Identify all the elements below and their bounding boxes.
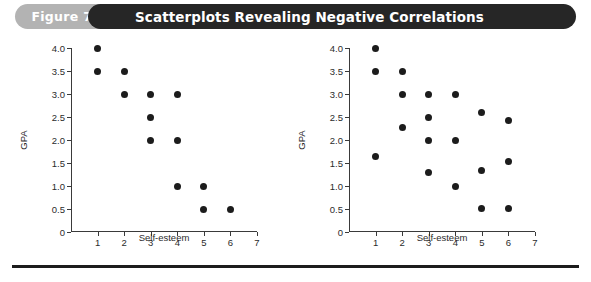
data-point — [174, 137, 181, 144]
y-axis-tick — [345, 209, 349, 210]
data-point — [94, 68, 101, 75]
scatterplot-right: 00.51.01.52.02.53.03.54.01234567 GPA Sel… — [278, 34, 573, 262]
y-axis-tick-label: 1.5 — [52, 158, 65, 169]
y-axis-title: GPA — [296, 48, 307, 232]
y-axis-tick-label: 2.0 — [52, 135, 65, 146]
data-point — [452, 91, 459, 98]
data-point — [200, 206, 207, 213]
bottom-rule — [12, 265, 579, 268]
y-axis-tick-label: 4.0 — [52, 43, 65, 54]
data-point — [505, 205, 512, 212]
y-axis-tick-label: 0.5 — [52, 204, 65, 215]
y-axis-tick-label: 4.0 — [330, 43, 343, 54]
data-point — [372, 45, 379, 52]
data-point — [452, 137, 459, 144]
y-axis-line — [71, 48, 72, 232]
y-axis-tick-label: 1.5 — [330, 158, 343, 169]
y-axis-tick — [67, 71, 71, 72]
y-axis-tick-label: 2.5 — [52, 112, 65, 123]
x-axis-title: Self-esteem — [71, 232, 257, 243]
data-point — [452, 183, 459, 190]
y-axis-tick — [345, 186, 349, 187]
data-point — [425, 137, 432, 144]
data-point — [399, 68, 406, 75]
y-axis-tick-label: 0 — [60, 227, 65, 238]
y-axis-title-wrap: GPA — [18, 48, 30, 232]
figure-header: Figure 7-6 Scatterplots Revealing Negati… — [0, 0, 591, 34]
data-point — [174, 91, 181, 98]
data-point — [200, 183, 207, 190]
data-point — [505, 158, 512, 165]
data-point — [478, 167, 485, 174]
y-axis-tick — [67, 140, 71, 141]
y-axis-tick-label: 1.0 — [330, 181, 343, 192]
plot-area-left: 00.51.01.52.02.53.03.54.01234567 — [71, 48, 257, 232]
data-point — [147, 91, 154, 98]
data-point — [174, 183, 181, 190]
y-axis-tick-label: 3.5 — [52, 66, 65, 77]
data-point — [478, 109, 485, 116]
data-point — [372, 153, 379, 160]
charts-row: 00.51.01.52.02.53.03.54.01234567 GPA Sel… — [0, 34, 591, 262]
y-axis-title-wrap: GPA — [296, 48, 308, 232]
y-axis-tick-label: 3.0 — [330, 89, 343, 100]
y-axis-tick-label: 2.0 — [330, 135, 343, 146]
data-point — [372, 68, 379, 75]
data-point — [478, 205, 485, 212]
y-axis-tick — [345, 94, 349, 95]
y-axis-tick-label: 1.0 — [52, 181, 65, 192]
y-axis-tick-label: 3.5 — [330, 66, 343, 77]
x-axis-tick — [535, 232, 536, 236]
data-point — [425, 114, 432, 121]
y-axis-tick — [345, 48, 349, 49]
y-axis-tick — [67, 117, 71, 118]
figure-title-bar: Scatterplots Revealing Negative Correlat… — [88, 4, 576, 29]
y-axis-tick-label: 2.5 — [330, 112, 343, 123]
y-axis-tick — [67, 186, 71, 187]
y-axis-tick — [67, 94, 71, 95]
data-point — [399, 91, 406, 98]
data-point — [121, 68, 128, 75]
data-point — [94, 45, 101, 52]
y-axis-tick — [345, 117, 349, 118]
x-axis-title: Self-esteem — [349, 232, 535, 243]
y-axis-tick — [67, 48, 71, 49]
y-axis-tick — [67, 163, 71, 164]
data-point — [505, 117, 512, 124]
y-axis-line — [349, 48, 350, 232]
data-point — [121, 91, 128, 98]
figure-title: Scatterplots Revealing Negative Correlat… — [135, 9, 484, 25]
data-point — [425, 91, 432, 98]
y-axis-tick — [345, 71, 349, 72]
y-axis-title: GPA — [18, 48, 29, 232]
y-axis-tick — [67, 209, 71, 210]
data-point — [147, 137, 154, 144]
x-axis-tick — [257, 232, 258, 236]
y-axis-tick — [345, 163, 349, 164]
data-point — [399, 124, 406, 131]
y-axis-tick-label: 3.0 — [52, 89, 65, 100]
y-axis-tick-label: 0.5 — [330, 204, 343, 215]
scatterplot-left: 00.51.01.52.02.53.03.54.01234567 GPA Sel… — [0, 34, 295, 262]
plot-area-right: 00.51.01.52.02.53.03.54.01234567 — [349, 48, 535, 232]
y-axis-tick — [345, 140, 349, 141]
y-axis-tick-label: 0 — [338, 227, 343, 238]
data-point — [425, 169, 432, 176]
data-point — [147, 114, 154, 121]
data-point — [227, 206, 234, 213]
